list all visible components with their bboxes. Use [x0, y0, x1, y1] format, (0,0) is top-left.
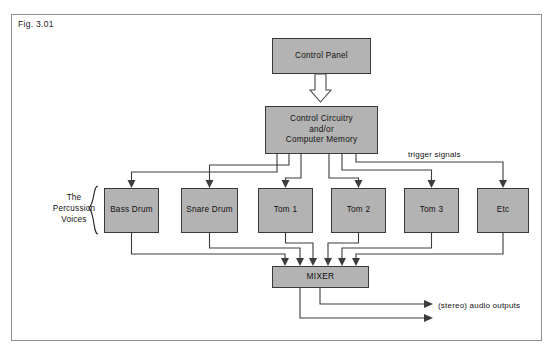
node-etc[interactable]: Etc [477, 188, 529, 233]
node-tom-2-label: Tom 2 [332, 205, 385, 216]
percussion-voices-line3: Voices [44, 214, 104, 225]
node-tom-2[interactable]: Tom 2 [331, 188, 386, 233]
figure-label: Fig. 3.01 [18, 19, 54, 29]
percussion-voices-line2: Percussion [44, 203, 104, 214]
node-control-circuitry-line2: and/or [266, 125, 377, 136]
node-snare-drum[interactable]: Snare Drum [181, 188, 238, 233]
node-control-circuitry[interactable]: Control Circuitry and/or Computer Memory [265, 106, 378, 154]
node-mixer[interactable]: MIXER [272, 266, 369, 288]
node-control-circuitry-line1: Control Circuitry [266, 114, 377, 125]
percussion-voices-line1: The [44, 192, 104, 203]
node-snare-drum-label: Snare Drum [182, 205, 237, 216]
node-control-panel-label: Control Panel [273, 51, 370, 62]
node-mixer-label: MIXER [273, 271, 368, 282]
node-control-panel[interactable]: Control Panel [272, 38, 371, 74]
node-bass-drum[interactable]: Bass Drum [104, 188, 159, 233]
figure-root: Fig. 3.01 Control Panel Control Circuitr… [0, 0, 556, 355]
trigger-signals-label: trigger signals [408, 150, 461, 159]
node-control-circuitry-line3: Computer Memory [266, 135, 377, 146]
node-tom-3[interactable]: Tom 3 [404, 188, 459, 233]
node-bass-drum-label: Bass Drum [105, 205, 158, 216]
node-tom-1[interactable]: Tom 1 [258, 188, 313, 233]
node-etc-label: Etc [478, 205, 528, 216]
percussion-voices-group-label: The Percussion Voices [44, 192, 104, 225]
node-tom-1-label: Tom 1 [259, 205, 312, 216]
node-tom-3-label: Tom 3 [405, 205, 458, 216]
audio-outputs-label: (stereo) audio outputs [438, 301, 520, 310]
